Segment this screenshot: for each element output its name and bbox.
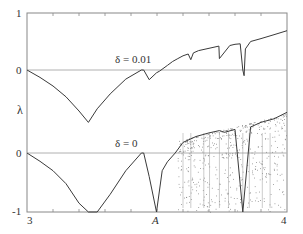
annotation-delta-001: δ = 0.01 [115, 54, 151, 65]
lyapunov-chart [0, 0, 303, 234]
y-tick-label-top: 1 [16, 8, 22, 19]
y-tick-label-bottom: -1 [12, 206, 21, 217]
x-tick-label-A: A [152, 215, 159, 226]
x-tick-label-right: 4 [281, 215, 287, 226]
y-tick-label-zero-upper: 0 [16, 65, 22, 76]
x-tick-label-left: 3 [27, 215, 33, 226]
zero-lines [27, 70, 287, 153]
annotation-delta-0: δ = 0 [115, 138, 137, 149]
lyapunov-curves [27, 31, 287, 212]
chaotic-scatter [178, 114, 287, 212]
y-axis-label: λ [17, 104, 23, 116]
tick-marks [53, 13, 261, 212]
y-tick-label-zero-lower: 0 [16, 148, 22, 159]
axes-frame [27, 13, 287, 212]
